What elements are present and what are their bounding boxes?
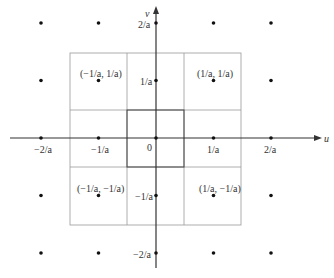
point-label: (1/a, 1/a)	[197, 68, 233, 80]
lattice-point	[212, 79, 216, 83]
lattice-point	[154, 79, 158, 83]
lattice-point	[212, 136, 216, 140]
lattice-point	[97, 79, 101, 83]
lattice-point	[39, 136, 43, 140]
point-label: (−1/a, −1/a)	[77, 183, 124, 195]
lattice-point	[154, 136, 158, 140]
lattice-diagram: u v 0 −2/a −1/a 1/a 2/a 2/a 1/a −1/a −2/…	[0, 0, 334, 278]
lattice-point	[39, 79, 43, 83]
lattice-point	[39, 21, 43, 25]
lattice-point	[154, 21, 158, 25]
lattice-point	[269, 194, 273, 198]
lattice-point	[97, 136, 101, 140]
lattice-point	[212, 21, 216, 25]
lattice-point	[97, 194, 101, 198]
y-tick-label: −2/a	[133, 249, 151, 260]
point-label: (1/a, −1/a)	[199, 183, 241, 195]
lattice-point	[154, 194, 158, 198]
x-tick-label: 2/a	[264, 144, 277, 155]
lattice-point	[39, 251, 43, 255]
x-tick-label: 1/a	[207, 144, 220, 155]
lattice-point	[269, 136, 273, 140]
u-axis-arrow-icon	[314, 135, 322, 141]
x-tick-label: −1/a	[91, 144, 109, 155]
lattice-point	[269, 21, 273, 25]
v-axis-arrow-icon	[153, 6, 159, 14]
lattice-point	[154, 251, 158, 255]
lattice-point	[269, 251, 273, 255]
lattice-point	[212, 194, 216, 198]
v-axis-label: v	[145, 8, 150, 19]
lattice-point	[97, 251, 101, 255]
y-tick-label: −1/a	[135, 191, 153, 202]
u-axis-label: u	[324, 133, 329, 144]
point-label: (−1/a, 1/a)	[80, 68, 122, 80]
lattice-point	[97, 21, 101, 25]
lattice-point	[39, 194, 43, 198]
diagram-canvas: u v 0 −2/a −1/a 1/a 2/a 2/a 1/a −1/a −2/…	[0, 0, 334, 278]
lattice-point	[212, 251, 216, 255]
lattice-point	[269, 79, 273, 83]
x-tick-label: −2/a	[34, 144, 52, 155]
y-tick-label: 1/a	[140, 76, 153, 87]
origin-label: 0	[147, 142, 152, 153]
y-tick-label: 2/a	[138, 19, 151, 30]
